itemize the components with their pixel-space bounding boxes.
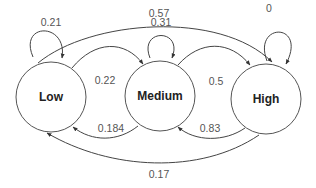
node-medium: Medium — [125, 61, 195, 131]
edge-label-low-to-low: 0.21 — [41, 16, 62, 28]
edge-label-high-to-high: 0 — [266, 2, 272, 14]
node-low: Low — [16, 62, 86, 132]
edge-label-medium-to-low: 0.184 — [98, 122, 124, 134]
edge-medium-to-high — [178, 46, 250, 65]
state-transition-diagram: Low Medium High 0.21 0.31 0 0.57 0.22 0.… — [0, 0, 316, 188]
edge-label-medium-to-high: 0.5 — [209, 75, 224, 87]
node-low-label: Low — [39, 90, 64, 104]
edge-medium-to-medium — [148, 36, 174, 59]
edge-high-to-low — [47, 133, 259, 163]
node-high-label: High — [253, 92, 280, 106]
edge-label-high-to-low: 0.17 — [149, 168, 170, 180]
edge-low-to-high — [38, 27, 272, 63]
node-high: High — [231, 64, 301, 134]
edge-low-to-medium — [72, 46, 143, 68]
edge-label-low-to-medium: 0.22 — [95, 74, 116, 86]
edge-label-high-to-medium: 0.83 — [200, 122, 221, 134]
edge-low-to-low — [30, 31, 62, 58]
node-medium-label: Medium — [137, 89, 182, 103]
edge-label-low-to-high: 0.57 — [149, 7, 170, 19]
